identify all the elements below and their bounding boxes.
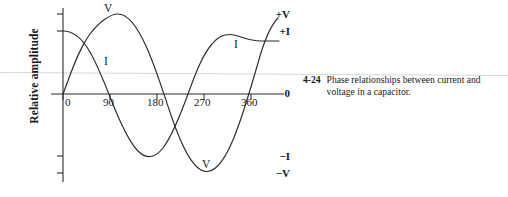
- x-tick-label-90: 90: [103, 96, 114, 108]
- y-tick-label-minus-i: −I: [238, 150, 290, 162]
- y-tick-label-plus-i: +I: [238, 25, 290, 37]
- curve-label-voltage-trough: V: [202, 158, 210, 170]
- figure-panel: Relative amplitude +V +I 0 −I −V 0 90 18…: [0, 0, 290, 197]
- y-tick-label-minus-v: −V: [238, 167, 290, 179]
- figure-caption-number: 4-24: [303, 74, 321, 86]
- x-tick-label-270: 270: [194, 96, 211, 108]
- x-tick-label-180: 180: [147, 96, 164, 108]
- x-tick-label-360: 360: [241, 96, 258, 108]
- curve-label-current-right: I: [234, 38, 238, 50]
- x-tick-label-0: 0: [65, 96, 71, 108]
- curve-label-current-left: I: [104, 55, 108, 67]
- figure-caption: 4-24 Phase relationships between current…: [303, 74, 503, 97]
- y-tick-label-plus-v: +V: [238, 8, 290, 20]
- figure-caption-text: Phase relationships between current and …: [327, 74, 503, 97]
- y-axis-title: Relative amplitude: [28, 6, 40, 146]
- curve-label-voltage-peak: V: [104, 2, 112, 14]
